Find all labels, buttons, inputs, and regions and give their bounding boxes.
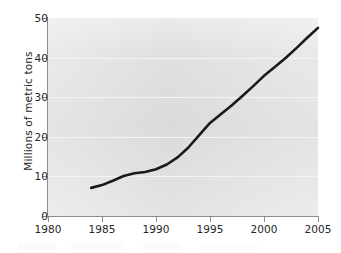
x-axis-line [47, 216, 319, 217]
x-tick-1985 [102, 216, 103, 222]
paper-grain-texture [48, 18, 318, 216]
x-tick-label-1985: 1985 [80, 224, 124, 235]
gridline-40 [48, 58, 318, 59]
gridline-20 [48, 137, 318, 138]
x-tick-1980 [48, 216, 49, 222]
chart-figure: 0 10 20 30 40 50 1980 1985 1990 1995 200… [0, 0, 341, 253]
gridline-10 [48, 176, 318, 177]
x-tick-label-1995: 1995 [188, 224, 232, 235]
x-tick-2005 [318, 216, 319, 222]
x-tick-label-1980: 1980 [26, 224, 70, 235]
scan-artifact [18, 243, 258, 250]
y-axis-line [47, 17, 48, 217]
plot-area [48, 18, 318, 216]
x-tick-2000 [264, 216, 265, 222]
gridline-30 [48, 97, 318, 98]
x-tick-label-2000: 2000 [242, 224, 286, 235]
y-tick-label-50: 50 [24, 13, 48, 23]
y-tick-label-0: 0 [24, 211, 48, 221]
x-tick-label-2005: 2005 [296, 224, 340, 235]
x-tick-1990 [156, 216, 157, 222]
x-tick-1995 [210, 216, 211, 222]
x-tick-label-1990: 1990 [134, 224, 178, 235]
y-axis-title: Millions of metric tons [22, 31, 34, 191]
